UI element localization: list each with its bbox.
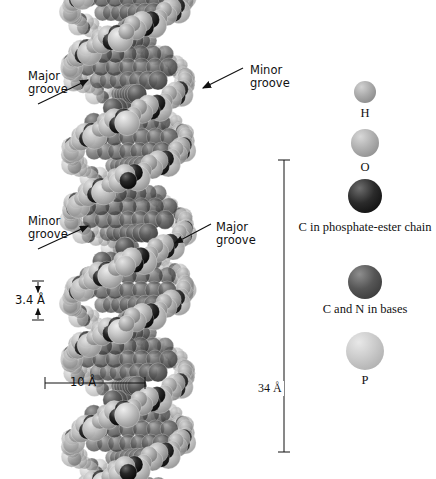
legend-sphere-carbon-phosphate xyxy=(348,179,382,213)
legend-label-phosphorus: P xyxy=(300,373,430,388)
legend-item-hydrogen: H xyxy=(300,81,430,121)
annotation-minor-groove-right: Minor groove xyxy=(250,64,290,90)
legend-label-carbon-nitrogen-base: C and N in bases xyxy=(300,302,430,317)
legend-sphere-phosphorus xyxy=(346,332,384,370)
legend-label-oxygen: O xyxy=(300,160,430,175)
atom-legend: HOC in phosphate-ester chainC and N in b… xyxy=(300,0,430,479)
legend-item-carbon-nitrogen-base: C and N in bases xyxy=(300,265,430,317)
annotation-minor-groove-left: Minor groove xyxy=(28,215,68,241)
measurement-label-pitch: 34 Å xyxy=(256,381,284,396)
legend-label-hydrogen: H xyxy=(300,106,430,121)
annotation-major-groove-left: Major groove xyxy=(28,70,68,96)
legend-item-phosphorus: P xyxy=(300,332,430,388)
measurement-label-rise: 3.4 Å xyxy=(15,293,45,307)
legend-sphere-carbon-nitrogen-base xyxy=(348,265,382,299)
legend-label-carbon-phosphate: C in phosphate-ester chain xyxy=(228,220,436,235)
legend-item-carbon-phosphate: C in phosphate-ester chain xyxy=(300,179,430,213)
measurement-label-diameter: 10 Å xyxy=(70,375,96,389)
legend-sphere-hydrogen xyxy=(354,81,376,103)
legend-sphere-oxygen xyxy=(351,129,379,157)
legend-item-oxygen: O xyxy=(300,129,430,175)
